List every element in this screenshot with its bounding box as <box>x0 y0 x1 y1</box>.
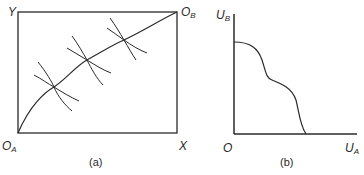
ua-axis-label: UA <box>345 142 359 156</box>
edgeworth-box <box>18 12 177 133</box>
contract-curve <box>18 12 177 133</box>
x-axis-label: X <box>179 140 187 152</box>
origin-b-label: OB <box>181 6 196 20</box>
origin-label: O <box>223 142 232 154</box>
panel-b-caption: (b) <box>280 157 293 168</box>
indifference-curve-b2 <box>67 48 111 73</box>
origin-a-label: OA <box>2 140 17 154</box>
panel-a-caption: (a) <box>89 157 102 168</box>
y-axis-label: Y <box>8 6 16 18</box>
ub-axis-label: UB <box>216 9 230 23</box>
utility-possibility-frontier <box>234 42 306 134</box>
